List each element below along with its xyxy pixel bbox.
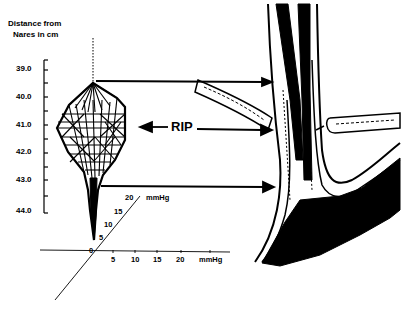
pressure-profile-mesh [57, 83, 125, 240]
diagram-graphics [0, 0, 405, 314]
y-axis [44, 60, 48, 213]
pressure-axes [40, 196, 230, 300]
esophagus-anatomy [195, 4, 400, 266]
